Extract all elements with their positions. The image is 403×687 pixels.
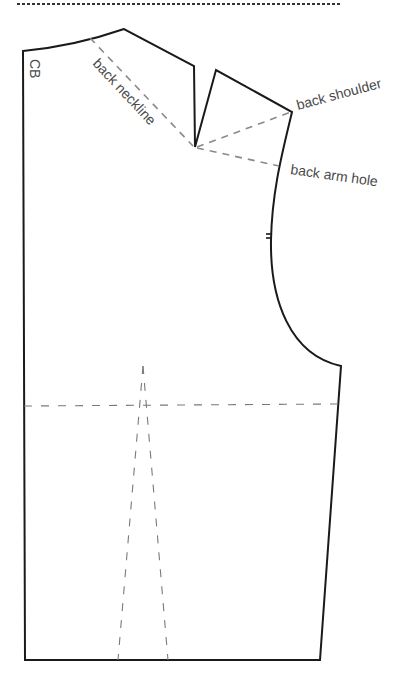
back-bodice-pattern-diagram: CB back neckline back shoulder back arm … xyxy=(0,0,403,687)
waist-dart-right xyxy=(143,366,168,660)
waist-line xyxy=(24,404,338,406)
shoulder-guide xyxy=(197,112,291,147)
back-shoulder-label: back shoulder xyxy=(295,75,384,113)
waist-dart-left xyxy=(118,366,143,660)
back-neckline-label: back neckline xyxy=(90,55,160,128)
neckline-guide xyxy=(90,38,193,146)
bodice-outline xyxy=(23,29,341,660)
armhole-guide xyxy=(197,148,279,166)
center-back-label: CB xyxy=(27,59,43,78)
back-arm-hole-label: back arm hole xyxy=(290,161,380,189)
